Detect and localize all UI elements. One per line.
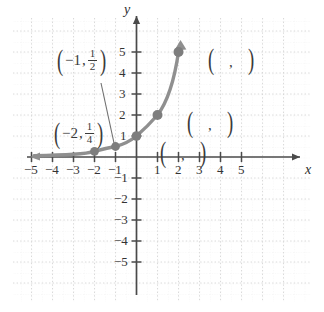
fraction-numerator: 1: [88, 48, 98, 60]
x-axis-label: x: [305, 163, 311, 177]
y-tick-label--1: −1: [114, 171, 128, 184]
blank-comma: ,: [229, 55, 233, 70]
fraction-numerator: 1: [85, 121, 95, 133]
y-tick-label-5: 5: [119, 45, 126, 58]
callout-close-paren: ): [97, 121, 103, 145]
y-tick-label--3: −3: [114, 213, 128, 226]
callout-neg2-comma: ,: [79, 126, 83, 141]
callout-point-neg2: ( −2 , 1 4 ): [52, 121, 105, 145]
y-tick-label-3: 3: [119, 87, 126, 100]
y-tick-label-4: 4: [119, 66, 126, 79]
x-tick-label--4: −4: [45, 163, 59, 176]
x-tick-label--2: −2: [87, 163, 101, 176]
fraction-denominator: 4: [85, 134, 95, 146]
y-tick-label--4: −4: [114, 234, 128, 247]
callout-close-paren: ): [100, 48, 106, 72]
x-tick-label-5: 5: [238, 163, 245, 176]
callout-open-paren: (: [57, 48, 63, 72]
callout-neg1-comma: ,: [82, 53, 86, 68]
callout-neg2-x: −2: [62, 126, 78, 141]
y-tick-label--5: −5: [114, 255, 128, 268]
y-tick-label-2: 2: [119, 108, 126, 121]
y-tick-label-1: 1: [120, 129, 127, 142]
graph-screenshot: y x −5 −4 −3 −2 −1 1 2 3 4 5 5 4 3 2 1 −…: [0, 0, 324, 312]
blank-coordinate-middle[interactable]: ( , ): [185, 110, 235, 134]
point-neg1: [111, 142, 120, 151]
x-tick-label--3: −3: [66, 163, 80, 176]
callout-point-neg1: ( −1 , 1 2 ): [55, 48, 108, 72]
fraction-denominator: 2: [88, 61, 98, 73]
blank-comma: ,: [208, 118, 212, 133]
callout-neg2-fraction: 1 4: [85, 121, 95, 145]
x-tick-label-4: 4: [217, 163, 224, 176]
blank-close-paren: ): [200, 140, 206, 164]
y-axis-label: y: [124, 3, 130, 17]
blank-open-paren: (: [160, 140, 166, 164]
point-zero: [132, 131, 142, 141]
x-tick-label--5: −5: [24, 163, 38, 176]
callout-neg1-fraction: 1 2: [88, 48, 98, 72]
y-tick-label--2: −2: [114, 192, 128, 205]
blank-close-paren: ): [227, 110, 233, 134]
blank-open-paren: (: [187, 110, 193, 134]
blank-close-paren: ): [248, 47, 254, 71]
blank-open-paren: (: [208, 47, 214, 71]
point-one: [153, 110, 163, 120]
callout-open-paren: (: [54, 121, 60, 145]
blank-coordinate-top[interactable]: ( , ): [206, 47, 256, 71]
blank-comma: ,: [181, 148, 185, 163]
blank-coordinate-lower[interactable]: ( , ): [158, 140, 208, 164]
x-tick-label-2: 2: [175, 163, 182, 176]
callout-neg1-x: −1: [65, 53, 81, 68]
point-two: [174, 47, 184, 57]
